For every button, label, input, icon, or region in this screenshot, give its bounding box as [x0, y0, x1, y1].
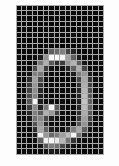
pixel-cell — [99, 149, 105, 155]
image-canvas: 0 — [0, 0, 119, 166]
pixel-grid-panel — [16, 5, 104, 155]
